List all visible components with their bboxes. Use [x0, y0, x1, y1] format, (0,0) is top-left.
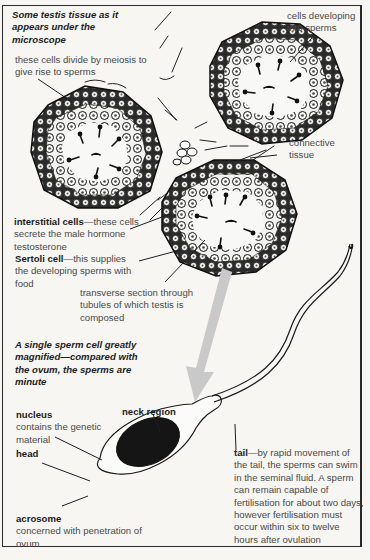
label-tail: tail—by rapid movement of the tail, the … — [234, 447, 364, 546]
label-neck-region: neck region — [122, 406, 192, 418]
tubule-bottom-icon — [162, 160, 297, 276]
section-title-sperm: A single sperm cell greatly magnified—co… — [15, 339, 145, 389]
label-meiosis: these cells divide by meiosis to give ri… — [15, 54, 155, 79]
section-title-testis: Some testis tissue as it appears under t… — [12, 9, 132, 46]
tubule-top-right-icon — [210, 22, 343, 144]
label-nucleus: nucleuscontains the genetic material — [16, 409, 116, 446]
label-transverse-section: transverse section through tubules of wh… — [80, 287, 200, 324]
label-interstitial-cells: interstitial cells—these cells secrete t… — [14, 216, 154, 253]
interstitial-cells-icon — [173, 141, 197, 165]
label-sertoli-cell: Sertoli cell—this supplies the developin… — [15, 253, 135, 290]
label-connective-tissue: connective tissue — [289, 137, 349, 162]
label-acrosome: acrosomeconcerned with penetration of ov… — [16, 513, 156, 550]
label-developing-cells: cells developing into sperms — [287, 10, 359, 35]
tubule-left-icon — [31, 86, 162, 208]
label-head: head — [16, 448, 76, 460]
